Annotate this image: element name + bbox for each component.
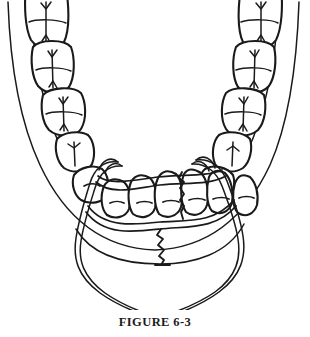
tooth-right-first-molar [222,88,265,135]
right-posterior-teeth [199,0,282,203]
tooth-right-second-premolar [213,132,251,171]
tooth-left-second-molar [32,41,74,93]
figure-container: FIGURE 6-3 [0,0,310,337]
tooth-left-first-molar [42,88,85,135]
tooth-right-second-molar [233,41,275,93]
tooth-lateral-incisor-left [129,175,157,217]
mandible-illustration [0,0,310,310]
tooth-central-incisor-right [181,169,208,214]
tooth-left-second-premolar [56,132,94,171]
figure-caption: FIGURE 6-3 [0,315,310,330]
tooth-canine-left [102,179,131,217]
